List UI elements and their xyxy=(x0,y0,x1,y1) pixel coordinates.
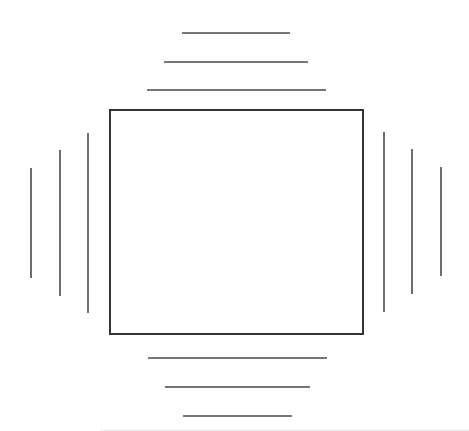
central-square xyxy=(110,110,363,334)
bottom-line-group xyxy=(148,358,327,416)
right-line-group xyxy=(384,132,441,312)
diagram-canvas xyxy=(0,0,469,431)
left-line-group xyxy=(31,133,88,313)
top-line-group xyxy=(147,33,326,90)
